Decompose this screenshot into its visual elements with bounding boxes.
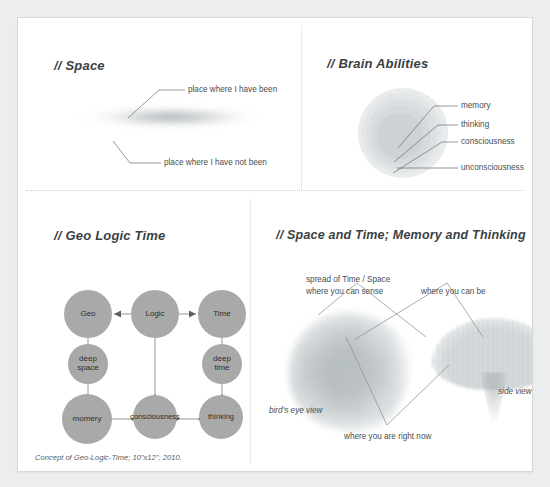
label-thinking: thinking <box>461 119 489 131</box>
label-unconsciousness: unconsciousness <box>461 162 524 174</box>
space-time-leader-lines <box>250 190 533 471</box>
label-where-you-are-right-now: where you are right now <box>344 431 431 443</box>
node-geo[interactable]: Geo <box>64 290 112 338</box>
panel-space: // Space place where I have been place w… <box>18 18 301 190</box>
node-thinking[interactable]: thinking <box>199 395 243 439</box>
label-where-you-can-be: where you can be <box>421 286 486 298</box>
panel-brain-abilities: // Brain Abilities memory thinking consc… <box>301 18 533 190</box>
node-time[interactable]: Time <box>198 290 246 338</box>
artwork-caption: Concept of Geo-Logic-Time; 10"x12"; 2010… <box>35 453 182 462</box>
label-place-been: place where I have been <box>188 84 277 96</box>
node-logic[interactable]: Logic <box>131 290 179 338</box>
label-side-view: side view <box>498 386 532 398</box>
label-memory: memory <box>461 100 491 112</box>
label-consciousness: consciousness <box>461 136 515 148</box>
node-consciousness[interactable]: consciousness <box>133 395 177 439</box>
label-spread-line1: spread of Time / Space <box>306 275 390 284</box>
artwork-card: // Space place where I have been place w… <box>17 17 533 472</box>
node-deep-space[interactable]: deep space <box>68 344 108 384</box>
label-spread-of-time-space: spread of Time / Space where you can sen… <box>306 274 390 298</box>
node-momery[interactable]: momery <box>62 394 112 444</box>
label-place-not-been: place where I have not been <box>164 157 267 169</box>
label-birds-eye-view: bird's eye view <box>269 405 322 417</box>
node-deep-time[interactable]: deep time <box>202 344 242 384</box>
panel-space-time-memory-thinking: // Space and Time; Memory and Thinking s… <box>250 190 533 471</box>
panel-geo-logic-time: // Geo Logic Time <box>18 190 250 471</box>
label-spread-line2: where you can sense <box>306 287 383 296</box>
